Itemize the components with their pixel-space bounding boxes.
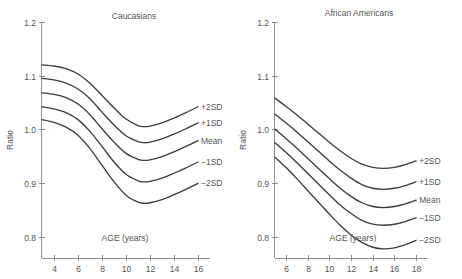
y-tick-label: 1.2: [24, 18, 36, 28]
x-tick-group-right: 681012141618: [284, 255, 421, 274]
curve-2sd: [42, 120, 198, 204]
curve-label-2sd: +2SD: [201, 102, 223, 112]
x-tick-label: 6: [76, 264, 81, 274]
y-axis-title-left: Ratio: [5, 130, 15, 150]
x-axis-group-right: 681012141618 AGE (years): [275, 233, 428, 274]
chart-svg-african-americans: African Americans 0.80.91.01.11.2 Ratio …: [231, 0, 462, 279]
panel-title-group: Caucasians: [112, 11, 156, 21]
curve-label-mean: Mean: [201, 136, 223, 146]
panel-title-caucasians: Caucasians: [112, 11, 156, 21]
curve-1sd: [42, 78, 198, 142]
x-tick-group-left: 46810121416: [52, 255, 203, 274]
x-tick-label: 8: [306, 264, 311, 274]
curve-label-2sd: +2SD: [419, 156, 441, 166]
x-tick-label: 10: [325, 264, 335, 274]
y-tick-label: 1.2: [257, 18, 269, 28]
x-tick-label: 8: [100, 264, 105, 274]
curve-label-1sd: −1SD: [201, 157, 223, 167]
y-axis-title-right: Ratio: [238, 130, 248, 150]
curve-label-2sd: −2SD: [419, 235, 441, 245]
x-tick-label: 4: [52, 264, 57, 274]
x-tick-label: 12: [347, 264, 357, 274]
x-tick-label: 16: [390, 264, 400, 274]
chart-svg-caucasians: Caucasians 0.80.91.01.11.2 Ratio 4681012…: [0, 0, 231, 279]
curve-label-1sd: −1SD: [419, 213, 441, 223]
y-tick-label: 1.1: [24, 72, 36, 82]
y-tick-label: 0.8: [24, 233, 36, 243]
panel-title-group: African Americans: [325, 8, 394, 18]
curve-label-group-right: +2SD+1SDMean−1SD−2SD: [419, 156, 441, 245]
y-tick-label: 0.9: [24, 179, 36, 189]
curve-label-group-left: +2SD+1SDMean−1SD−2SD: [201, 102, 223, 189]
curve-2sd: [275, 98, 416, 168]
chart-panel-african-americans: African Americans 0.80.91.01.11.2 Ratio …: [231, 0, 462, 279]
x-tick-label: 12: [146, 264, 156, 274]
y-axis-group-left: 0.80.91.01.11.2 Ratio: [5, 18, 45, 259]
curve-label-1sd: +1SD: [419, 177, 441, 187]
y-tick-label: 1.1: [257, 72, 269, 82]
x-axis-title-right: AGE (years): [330, 233, 377, 243]
x-axis-group-left: 46810121416 AGE (years): [42, 233, 211, 274]
curve-group-left: [42, 65, 198, 203]
x-tick-label: 14: [369, 264, 379, 274]
curve-label-mean: Mean: [419, 195, 441, 205]
x-tick-label: 18: [412, 264, 422, 274]
curve-group-right: [275, 98, 416, 249]
x-tick-label: 10: [122, 264, 132, 274]
curve-label-1sd: +1SD: [201, 118, 223, 128]
curve-2sd: [42, 65, 198, 127]
panel-title-african-americans: African Americans: [325, 8, 394, 18]
curve-label-2sd: −2SD: [201, 178, 223, 188]
x-tick-label: 16: [194, 264, 204, 274]
x-tick-label: 6: [284, 264, 289, 274]
y-tick-label: 1.0: [257, 125, 269, 135]
y-tick-label: 0.9: [257, 179, 269, 189]
y-tick-label: 1.0: [24, 125, 36, 135]
y-axis-group-right: 0.80.91.01.11.2 Ratio: [238, 18, 278, 259]
curve-mean: [275, 129, 416, 207]
x-tick-label: 14: [170, 264, 180, 274]
figure-container: Caucasians 0.80.91.01.11.2 Ratio 4681012…: [0, 0, 462, 279]
chart-panel-caucasians: Caucasians 0.80.91.01.11.2 Ratio 4681012…: [0, 0, 231, 279]
y-tick-label: 0.8: [257, 233, 269, 243]
x-axis-title-left: AGE (years): [102, 233, 149, 243]
